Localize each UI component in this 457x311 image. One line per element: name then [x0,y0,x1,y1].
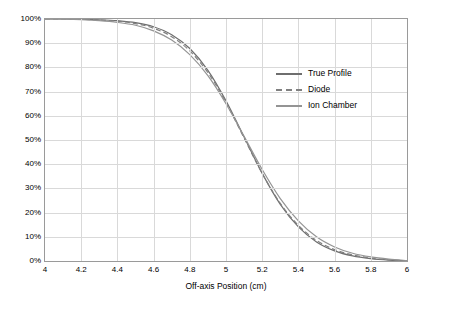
profile-chart: 0%10%20%30%40%50%60%70%80%90%100% 44.24.… [0,0,457,311]
legend-label: True Profile [308,67,352,79]
legend-swatch [276,73,302,75]
legend-label: Diode [308,83,330,95]
y-tick-label: 90% [3,39,41,47]
y-tick-label: 50% [3,136,41,144]
gridline-horizontal [45,140,407,141]
y-tick-label: 100% [3,15,41,23]
y-axis-tick-labels: 0%10%20%30%40%50%60%70%80%90%100% [0,18,41,262]
x-axis-tick-labels: 44.24.44.64.855.25.45.65.86 [44,265,408,277]
y-tick-label: 40% [3,160,41,168]
y-tick-label: 70% [3,88,41,96]
y-tick-label: 80% [3,63,41,71]
x-tick-label: 4.4 [97,265,137,274]
x-tick-label: 5.8 [351,265,391,274]
y-tick-label: 60% [3,112,41,120]
y-tick-label: 10% [3,233,41,241]
legend-item: Diode [276,82,384,98]
x-tick-label: 5.2 [242,265,282,274]
gridline-horizontal [45,188,407,189]
gridline-horizontal [45,116,407,117]
y-tick-label: 30% [3,184,41,192]
x-tick-label: 5.6 [315,265,355,274]
x-tick-label: 5 [206,265,246,274]
y-tick-label: 0% [3,257,41,265]
gridline-horizontal [45,43,407,44]
x-tick-label: 4 [25,265,65,274]
x-tick-label: 6 [387,265,427,274]
legend-label: Ion Chamber [308,99,357,111]
x-tick-label: 4.2 [61,265,101,274]
y-tick-label: 20% [3,209,41,217]
plot-area [44,18,408,262]
x-tick-label: 4.6 [134,265,174,274]
gridline-horizontal [45,237,407,238]
legend-swatch [276,89,302,91]
legend-item: Ion Chamber [276,98,384,114]
x-tick-label: 4.8 [170,265,210,274]
gridline-horizontal [45,164,407,165]
legend-item: True Profile [276,66,384,82]
legend-swatch [276,105,302,107]
chart-legend: True ProfileDiodeIon Chamber [276,66,384,114]
x-tick-label: 5.4 [278,265,318,274]
gridline-horizontal [45,213,407,214]
x-axis-title: Off-axis Position (cm) [44,281,408,291]
